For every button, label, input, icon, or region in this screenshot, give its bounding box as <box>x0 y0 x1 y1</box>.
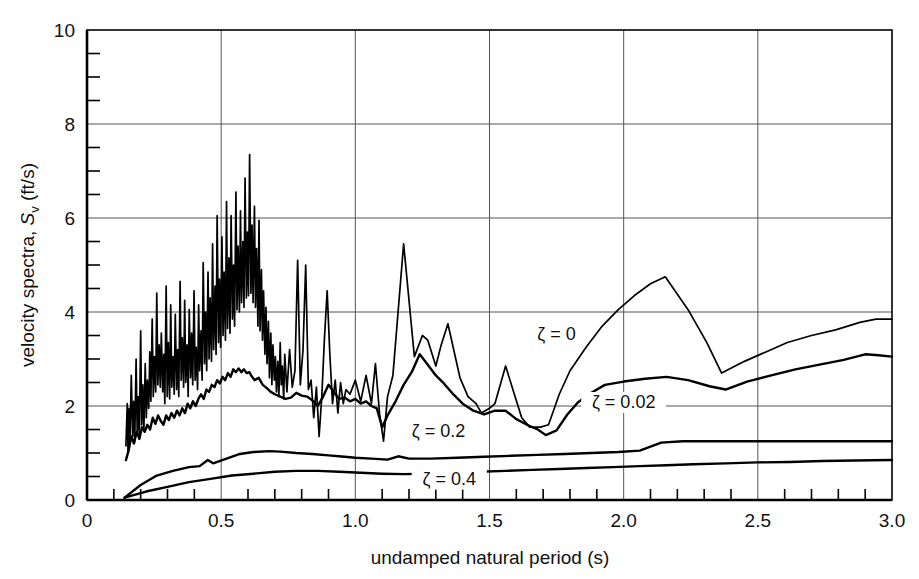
y-tick-label: 8 <box>64 114 75 135</box>
series-curve-0 <box>126 155 892 453</box>
zeta-02-label: ζ = 0.2 <box>412 421 465 441</box>
x-tick-label: 1.5 <box>476 510 502 531</box>
y-tick-label: 4 <box>64 302 75 323</box>
y-tick-label: 6 <box>64 208 75 229</box>
velocity-spectra-figure: 00.51.01.52.02.53.0 0246810 ζ = 0ζ = 0.0… <box>0 0 919 579</box>
zeta-002-label: ζ = 0.02 <box>592 392 655 412</box>
grid-layer <box>87 30 892 500</box>
y-tick-labels: 0246810 <box>54 20 76 511</box>
y-axis-title: velocity spectra, Sv (ft/s) <box>17 163 42 367</box>
x-tick-label: 0 <box>82 510 93 531</box>
x-tick-label: 2.5 <box>745 510 771 531</box>
x-tick-label: 3.0 <box>879 510 905 531</box>
y-axis-title-symbol: S <box>17 212 38 225</box>
series-curve-0p2 <box>125 441 892 497</box>
series-curve-0p4 <box>125 460 892 498</box>
zeta-0-label: ζ = 0 <box>537 324 575 344</box>
x-tick-label: 1.0 <box>342 510 368 531</box>
chart-svg: 00.51.01.52.02.53.0 0246810 ζ = 0ζ = 0.0… <box>0 0 919 579</box>
series-curve-0p02 <box>126 354 892 460</box>
x-tick-labels: 00.51.01.52.02.53.0 <box>82 510 906 531</box>
y-tick-label: 10 <box>54 20 75 41</box>
zeta-04-label: ζ = 0.4 <box>423 469 476 489</box>
y-axis-title-pre: velocity spectra, <box>17 225 38 367</box>
y-tick-label: 0 <box>64 490 75 511</box>
x-tick-label: 0.5 <box>208 510 234 531</box>
series-layer <box>125 155 892 498</box>
y-axis-title-post: (ft/s) <box>17 163 38 206</box>
svg-text:velocity spectra, Sv (ft/s): velocity spectra, Sv (ft/s) <box>17 163 42 367</box>
x-tick-label: 2.0 <box>610 510 636 531</box>
x-axis-title: undamped natural period (s) <box>371 547 610 568</box>
y-tick-label: 2 <box>64 396 75 417</box>
